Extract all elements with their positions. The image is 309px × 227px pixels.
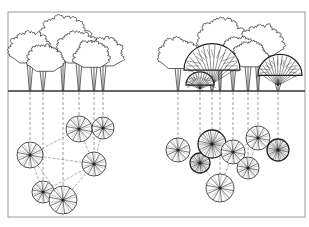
plan-tree-center (41, 190, 44, 193)
plan-tree-center (218, 186, 221, 189)
plan-tree-symbol (267, 139, 289, 161)
plan-tree-symbol (49, 186, 77, 214)
plan-tree-center (231, 150, 234, 153)
plan-tree-symbol (92, 117, 114, 139)
plan-tree-symbol (82, 152, 106, 176)
planting-diagram (0, 0, 309, 227)
plan-tree-symbol (17, 142, 43, 168)
plan-tree-symbol (166, 138, 190, 162)
plan-tree-center (246, 166, 249, 169)
plan-tree-center (256, 136, 259, 139)
plan-tree-symbol (206, 174, 234, 202)
plan-tree-center (92, 162, 95, 165)
plan-tree-center (198, 161, 201, 164)
plan-tree-symbol (66, 116, 92, 142)
diagram-canvas (0, 0, 309, 227)
plan-view (17, 116, 289, 214)
elevation-view (7, 14, 302, 91)
plan-tree-center (210, 142, 213, 145)
plan-tree-symbol (246, 126, 270, 150)
plan-tree-center (101, 126, 104, 129)
plan-tree-center (176, 148, 179, 151)
plan-tree-center (28, 153, 31, 156)
plan-tree-center (77, 127, 80, 130)
plan-tree-center (61, 198, 64, 201)
plan-tree-symbol (237, 157, 259, 179)
plan-tree-center (276, 148, 279, 151)
